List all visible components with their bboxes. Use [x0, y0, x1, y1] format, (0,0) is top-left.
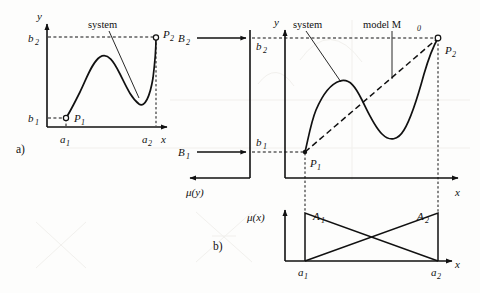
panel-a-system-curve — [66, 38, 156, 118]
panel-b-model-label: model M 0 — [363, 19, 421, 33]
panel-b-y-axis-label: y — [273, 16, 279, 28]
panel-a-p1-label: P 1 — [73, 112, 85, 127]
panel-a-b2-tick-label: b 2 — [28, 32, 39, 47]
panel-b-p1-label: P 1 — [309, 157, 321, 172]
svg-text:2: 2 — [452, 50, 456, 59]
svg-text:b: b — [256, 136, 262, 148]
svg-text:A: A — [416, 210, 424, 222]
panel-b-x-axis-label: x — [454, 186, 460, 198]
svg-text:B: B — [178, 32, 185, 44]
mu-x-a2-label: A 2 — [416, 210, 429, 225]
figure-canvas: y x b 2 b 1 a 1 a 2 P 1 P 2 system a) — [0, 0, 480, 293]
panel-a-point-p2 — [153, 35, 158, 40]
figure-root: y x b 2 b 1 a 1 a 2 P 1 P 2 system a) — [0, 0, 480, 293]
panel-b-b1-tick-label: b 1 — [256, 136, 267, 151]
svg-text:2: 2 — [263, 46, 267, 55]
svg-text:2: 2 — [437, 272, 441, 281]
svg-text:b: b — [256, 40, 262, 52]
svg-text:b: b — [28, 32, 34, 44]
panel-b-b2-tick-label: b 2 — [256, 40, 267, 55]
svg-text:1: 1 — [35, 118, 39, 127]
panel-a-p2-label: P 2 — [162, 28, 174, 43]
svg-text:2: 2 — [170, 34, 174, 43]
mu-x-a1-tick-label: a 1 — [298, 266, 308, 281]
svg-text:1: 1 — [66, 139, 70, 148]
mu-x-a1-label: A 1 — [312, 210, 325, 225]
svg-text:A: A — [312, 210, 320, 222]
panel-a-point-p1 — [63, 115, 68, 120]
mu-y-b2-label: B 2 — [178, 32, 190, 47]
panel-b-tag: b) — [213, 240, 223, 253]
panel-a-a1-tick-label: a 1 — [60, 133, 70, 148]
svg-text:1: 1 — [81, 118, 85, 127]
mu-x-a2-tick-label: a 2 — [431, 266, 441, 281]
svg-text:0: 0 — [417, 24, 421, 33]
svg-text:1: 1 — [321, 216, 325, 225]
panel-b-system-leader — [306, 31, 341, 82]
svg-text:model M: model M — [363, 19, 402, 30]
svg-text:B: B — [178, 146, 185, 158]
svg-text:2: 2 — [35, 38, 39, 47]
svg-text:1: 1 — [317, 163, 321, 172]
svg-text:1: 1 — [186, 152, 190, 161]
panel-a-y-axis-label: y — [36, 10, 42, 22]
panel-b-system-label: system — [293, 19, 322, 30]
svg-text:2: 2 — [148, 139, 152, 148]
svg-text:b: b — [28, 112, 34, 124]
svg-text:1: 1 — [263, 142, 267, 151]
svg-text:P: P — [73, 112, 81, 124]
svg-text:P: P — [162, 28, 170, 40]
panel-b-diagram — [252, 30, 458, 213]
panel-a-x-axis-label: x — [160, 133, 166, 145]
panel-b-point-p1 — [303, 150, 307, 154]
panel-a-system-leader — [109, 31, 139, 98]
svg-text:1: 1 — [304, 272, 308, 281]
mu-y-axis-label: μ(y) — [185, 186, 204, 199]
svg-text:2: 2 — [425, 216, 429, 225]
panel-a-diagram — [47, 24, 167, 127]
panel-a-b1-tick-label: b 1 — [28, 112, 39, 127]
svg-text:P: P — [444, 44, 452, 56]
mu-y-block — [190, 30, 250, 178]
svg-text:2: 2 — [186, 38, 190, 47]
svg-text:P: P — [309, 157, 317, 169]
panel-b-p2-label: P 2 — [444, 44, 456, 59]
panel-a-system-label: system — [88, 19, 117, 30]
panel-b-point-p2 — [435, 35, 441, 41]
mu-x-x-axis-label: x — [454, 258, 460, 270]
mu-x-axis-label: μ(x) — [246, 211, 265, 224]
panel-a-a2-tick-label: a 2 — [142, 133, 152, 148]
panel-a-tag: a) — [16, 143, 25, 156]
